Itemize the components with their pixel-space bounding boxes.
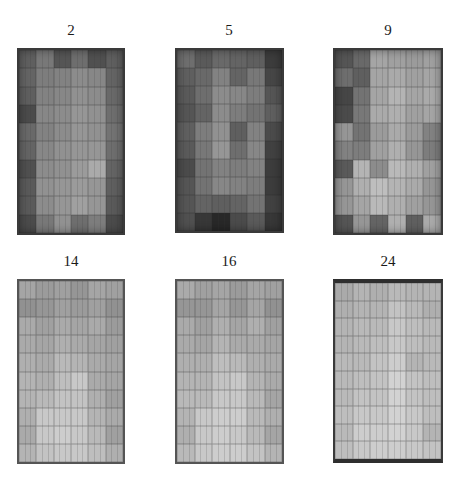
pv-cell: [19, 196, 36, 214]
solar-module-el-image: [17, 48, 125, 235]
pv-cell: [388, 424, 406, 442]
pv-cell: [423, 283, 441, 301]
pv-cell: [335, 87, 353, 105]
pv-cell: [88, 215, 105, 233]
pv-cell: [353, 123, 371, 141]
pv-cell: [88, 141, 105, 159]
pv-cell: [177, 353, 195, 371]
pv-cell: [353, 68, 371, 86]
pv-cell: [177, 86, 195, 104]
pv-cell: [247, 86, 265, 104]
pv-cell: [195, 141, 213, 159]
pv-cell: [406, 441, 424, 459]
pv-cell: [36, 372, 53, 390]
pv-cell: [423, 50, 441, 68]
pv-cell: [423, 441, 441, 459]
pv-cell: [19, 141, 36, 159]
pv-cell: [54, 353, 71, 371]
pv-cell: [247, 353, 265, 371]
pv-cell: [177, 390, 195, 408]
pv-cell: [247, 390, 265, 408]
pv-cell: [335, 424, 353, 442]
pv-cell: [423, 301, 441, 319]
pv-cell: [177, 122, 195, 140]
pv-cell: [19, 178, 36, 196]
pv-cell: [88, 408, 105, 426]
pv-cell: [195, 317, 213, 335]
solar-module-el-image: [175, 48, 284, 233]
pv-cell: [36, 160, 53, 178]
pv-cell: [36, 68, 53, 86]
pv-cell: [388, 441, 406, 459]
pv-cell: [212, 317, 230, 335]
pv-cell: [106, 87, 123, 105]
pv-cell: [212, 177, 230, 195]
pv-cell: [247, 372, 265, 390]
pv-cell: [370, 318, 388, 336]
pv-cell: [177, 159, 195, 177]
pv-cell: [195, 68, 213, 86]
pv-cell: [247, 104, 265, 122]
pv-cell: [388, 196, 406, 214]
pv-cell: [212, 426, 230, 444]
panel-label: 9: [358, 22, 418, 38]
pv-cell: [370, 301, 388, 319]
pv-cell: [54, 68, 71, 86]
pv-cell: [212, 353, 230, 371]
pv-cell: [353, 105, 371, 123]
pv-cell: [19, 160, 36, 178]
pv-cell: [36, 215, 53, 233]
pv-cell: [265, 390, 283, 408]
pv-cell: [212, 299, 230, 317]
pv-cell: [106, 317, 123, 335]
pv-cell: [230, 68, 248, 86]
pv-cell: [388, 318, 406, 336]
pv-cell: [212, 141, 230, 159]
pv-cell: [195, 444, 213, 462]
pv-cell: [36, 353, 53, 371]
pv-cell: [19, 87, 36, 105]
pv-cell: [406, 123, 424, 141]
pv-cell: [106, 372, 123, 390]
pv-cell: [36, 105, 53, 123]
pv-cell: [388, 87, 406, 105]
pv-cell: [106, 141, 123, 159]
pv-cell: [335, 68, 353, 86]
pv-cell: [388, 353, 406, 371]
pv-cell: [88, 426, 105, 444]
pv-cell: [88, 281, 105, 299]
pv-cell: [335, 283, 353, 301]
pv-cell: [370, 424, 388, 442]
pv-cell: [335, 178, 353, 196]
pv-cell: [370, 50, 388, 68]
pv-cell: [19, 444, 36, 462]
pv-cell: [195, 122, 213, 140]
pv-cell: [54, 123, 71, 141]
pv-cell: [195, 390, 213, 408]
pv-cell: [71, 160, 88, 178]
pv-cell: [54, 160, 71, 178]
pv-cell: [212, 86, 230, 104]
panel-label: 14: [41, 253, 101, 269]
pv-cell: [19, 317, 36, 335]
pv-cell: [36, 123, 53, 141]
pv-cell: [71, 390, 88, 408]
pv-cell: [212, 50, 230, 68]
pv-cell: [177, 299, 195, 317]
pv-cell: [247, 335, 265, 353]
pv-cell: [230, 372, 248, 390]
pv-cell: [230, 317, 248, 335]
pv-cell: [265, 50, 283, 68]
pv-cell: [388, 283, 406, 301]
pv-cell: [335, 215, 353, 233]
pv-cell: [195, 177, 213, 195]
pv-cell: [265, 122, 283, 140]
pv-cell: [353, 283, 371, 301]
pv-cell: [388, 50, 406, 68]
pv-cell: [406, 105, 424, 123]
pv-cell: [265, 372, 283, 390]
pv-cell: [388, 406, 406, 424]
pv-cell: [36, 444, 53, 462]
pv-cell: [247, 122, 265, 140]
pv-cell: [106, 160, 123, 178]
